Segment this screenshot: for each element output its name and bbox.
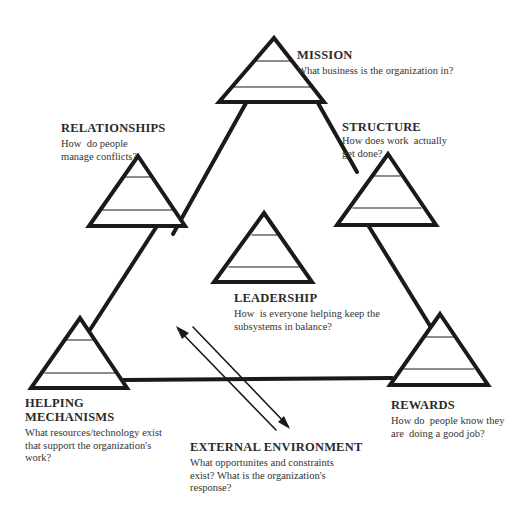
external-desc-line: What opportunites and constraints bbox=[190, 457, 410, 470]
mission-label: MISSION What business is the organizatio… bbox=[297, 48, 517, 78]
external-desc-line: exist? What is the organization's bbox=[190, 470, 410, 483]
relationships-label: RELATIONSHIPS How do people manage confl… bbox=[61, 121, 221, 163]
structure-description: How does work actually get done? bbox=[342, 135, 512, 160]
rewards-desc-line: How do people know they bbox=[391, 415, 521, 428]
helping-desc-line: that support the organization's bbox=[25, 440, 195, 453]
rewards-description: How do people know they are doing a good… bbox=[391, 415, 521, 440]
structure-desc-line: get done? bbox=[342, 148, 512, 161]
external-environment-title: EXTERNAL ENVIRONMENT bbox=[190, 440, 410, 454]
helping-mechanisms-label: HELPING MECHANISMS What resources/techno… bbox=[25, 396, 195, 465]
rewards-title: REWARDS bbox=[391, 398, 521, 412]
relationships-desc-line: How do people bbox=[61, 138, 221, 151]
leadership-title: LEADERSHIP bbox=[234, 291, 434, 305]
rewards-label: REWARDS How do people know they are doin… bbox=[391, 398, 521, 440]
relationships-description: How do people manage conflicts? bbox=[61, 138, 221, 163]
helping-title-line: MECHANISMS bbox=[25, 410, 195, 424]
rewards-desc-line: are doing a good job? bbox=[391, 428, 521, 441]
leadership-description: How is everyone helping keep the subsyst… bbox=[234, 308, 434, 333]
helping-mechanisms-pyramid-icon bbox=[31, 318, 127, 388]
external-environment-label: EXTERNAL ENVIRONMENT What opportunites a… bbox=[190, 440, 410, 495]
external-environment-description: What opportunites and constraints exist?… bbox=[190, 457, 410, 495]
relationships-desc-line: manage conflicts? bbox=[61, 151, 221, 164]
mission-title: MISSION bbox=[297, 48, 517, 62]
leadership-desc-line: subsystems in balance? bbox=[234, 321, 434, 334]
helping-mechanisms-title: HELPING MECHANISMS bbox=[25, 396, 195, 424]
helping-mechanisms-description: What resources/technology exist that sup… bbox=[25, 427, 195, 465]
structure-desc-line: How does work actually bbox=[342, 135, 512, 148]
structure-label: STRUCTURE How does work actually get don… bbox=[342, 120, 512, 160]
helping-desc-line: What resources/technology exist bbox=[25, 427, 195, 440]
helping-title-line: HELPING bbox=[25, 396, 195, 410]
external-desc-line: response? bbox=[190, 482, 410, 495]
leadership-label: LEADERSHIP How is everyone helping keep … bbox=[234, 291, 434, 333]
mission-desc-line: What business is the organization in? bbox=[297, 65, 517, 78]
relationships-pyramid-icon bbox=[89, 156, 185, 226]
mission-description: What business is the organization in? bbox=[297, 65, 517, 78]
leadership-pyramid-icon bbox=[214, 213, 312, 282]
leadership-desc-line: How is everyone helping keep the bbox=[234, 308, 434, 321]
helping-desc-line: work? bbox=[25, 452, 195, 465]
relationships-title: RELATIONSHIPS bbox=[61, 121, 221, 135]
structure-title: STRUCTURE bbox=[342, 120, 512, 134]
